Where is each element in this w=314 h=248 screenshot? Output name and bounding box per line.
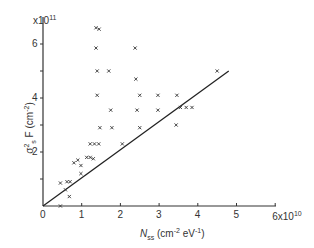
x-marker: [110, 126, 113, 129]
x-marker: [97, 142, 100, 145]
x-marker: [79, 164, 82, 167]
x-marker: [96, 94, 99, 97]
y-multiplier: x1011: [33, 14, 56, 26]
x-marker: [156, 94, 159, 97]
x-marker: [109, 109, 112, 112]
x-marker: [138, 126, 141, 129]
x-marker: [89, 156, 92, 159]
x-marker: [190, 106, 193, 109]
x-marker: [94, 26, 97, 29]
x-marker: [107, 69, 110, 72]
x-tick-label: 6x1010: [272, 210, 301, 222]
fit-line: [43, 71, 229, 206]
x-marker: [85, 156, 88, 159]
x-marker: [96, 69, 99, 72]
x-marker: [79, 172, 82, 175]
x-marker: [138, 94, 141, 97]
x-marker: [76, 159, 79, 162]
x-marker: [134, 78, 137, 81]
x-marker: [72, 161, 75, 164]
x-marker: [92, 157, 95, 160]
x-marker: [59, 181, 62, 184]
x-tick-exponent: 10: [294, 210, 302, 217]
x-marker: [121, 142, 124, 145]
x-marker: [175, 123, 178, 126]
x-marker: [94, 46, 97, 49]
x-marker: [68, 180, 71, 183]
x-marker: [135, 109, 138, 112]
x-tick-label: 5: [234, 210, 240, 220]
y-tick-label: 6: [32, 39, 38, 49]
x-marker: [93, 142, 96, 145]
x-marker: [65, 180, 68, 183]
x-marker: [216, 69, 219, 72]
x-marker: [156, 109, 159, 112]
x-marker: [185, 106, 188, 109]
x-marker: [98, 28, 101, 31]
data-points: [59, 26, 219, 207]
x-marker: [134, 46, 137, 49]
x-tick-label: 3: [156, 210, 162, 220]
x-marker: [98, 126, 101, 129]
x-axis-label: Nss (cm-2 eV-1): [140, 227, 205, 241]
x-marker: [175, 94, 178, 97]
x-tick-label: 4: [195, 210, 201, 220]
x-marker: [89, 142, 92, 145]
x-tick-label: 2: [117, 210, 123, 220]
x-marker: [68, 195, 71, 198]
x-tick-label: 1: [79, 210, 85, 220]
x-tick-label: 0: [40, 210, 46, 220]
y-axis-label: σ2s F (cm-2): [23, 102, 37, 153]
